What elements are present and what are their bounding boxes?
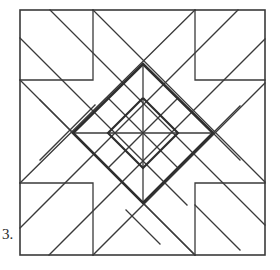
corner-square-bl [20, 183, 93, 255]
diag-ur-2 [49, 39, 265, 255]
diag-dr-3 [93, 10, 265, 182]
diag-ur-1 [20, 10, 238, 228]
figure-number-label: 3. [2, 226, 13, 243]
corner-square-tl [20, 10, 93, 80]
diag-ur-4 [20, 10, 195, 183]
geometric-pattern-figure [0, 0, 280, 270]
thin-lines [20, 10, 265, 255]
corner-square-tr [195, 10, 265, 80]
corner-square-br [195, 183, 265, 255]
diag-dr-10 [195, 205, 240, 250]
